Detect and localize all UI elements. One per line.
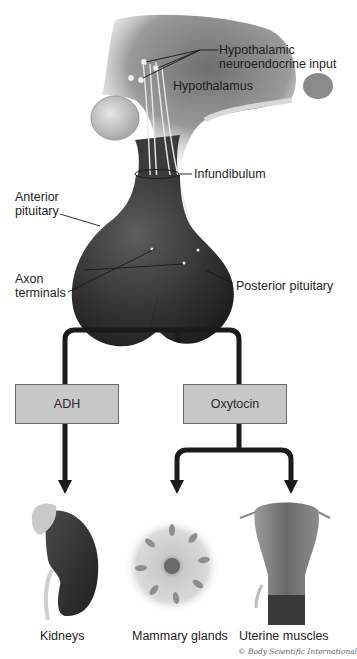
- axon-terminals-label-line1: Axon: [15, 272, 66, 286]
- hormone-box-adh: ADH: [15, 384, 119, 424]
- pituitary-gland-shape: [72, 175, 234, 346]
- anterior-pituitary-label-line1: Anterior: [15, 190, 59, 204]
- hormone-box-oxytocin: Oxytocin: [183, 384, 287, 424]
- axon-terminals-label: Axon terminals: [15, 272, 66, 300]
- hypothalamic-input-label-line2: neuroendocrine input: [219, 57, 336, 71]
- infundibulum-label: Infundibulum: [194, 167, 266, 181]
- hypothalamic-input-label: Hypothalamic neuroendocrine input: [219, 43, 336, 71]
- kidney-illustration: [32, 504, 98, 620]
- arrowhead-icons: [58, 480, 298, 494]
- mammary-gland-illustration: [124, 518, 220, 614]
- hypothalamus-label: Hypothalamus: [173, 79, 253, 93]
- copyright-notice: © Body Scientific International: [238, 647, 357, 656]
- target-label-kidneys: Kidneys: [40, 629, 84, 643]
- axon-terminals-label-line2: terminals: [15, 286, 66, 300]
- target-label-uterine: Uterine muscles: [239, 629, 329, 643]
- anterior-pituitary-label: Anterior pituitary: [15, 190, 59, 218]
- anterior-pituitary-label-line2: pituitary: [15, 204, 59, 218]
- uterus-illustration: [240, 503, 330, 626]
- hypothalamic-input-label-line1: Hypothalamic: [219, 43, 336, 57]
- posterior-pituitary-label: Posterior pituitary: [236, 279, 333, 293]
- target-label-mammary: Mammary glands: [132, 629, 228, 643]
